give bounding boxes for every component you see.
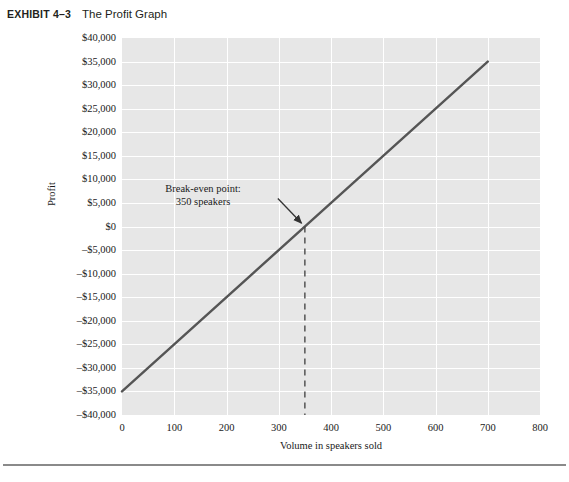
footer-rule xyxy=(3,464,566,466)
exhibit-figure: EXHIBIT 4–3The Profit Graph $40,000$35,0… xyxy=(0,0,569,482)
break-even-arrow xyxy=(278,199,302,224)
chart-svg xyxy=(0,0,569,482)
